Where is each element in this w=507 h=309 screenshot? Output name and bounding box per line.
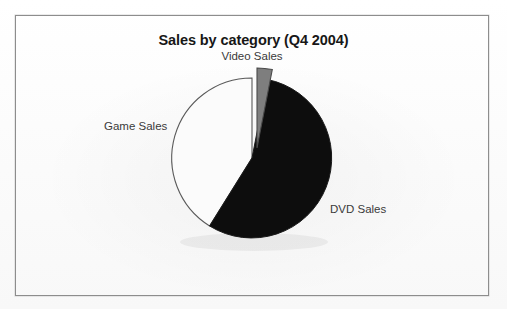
pie-label-game-sales: Game Sales [104, 120, 167, 132]
pie-label-video-sales: Video Sales [221, 50, 282, 62]
pie-chart-graphic [0, 0, 507, 309]
pie-label-dvd-sales: DVD Sales [330, 203, 386, 215]
chart-screenshot: Sales by category (Q4 2004) Video Sales … [0, 0, 507, 309]
